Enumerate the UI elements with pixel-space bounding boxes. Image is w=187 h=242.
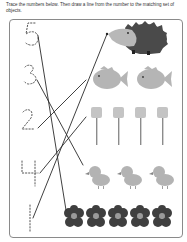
hedgehog-icon [106,21,168,55]
flower-icon [130,205,150,227]
match-line-5-flowers[interactable] [38,36,66,210]
number-3-trace[interactable] [24,65,36,84]
marshmallow-icon [157,107,168,145]
marshmallow-icon [113,107,124,145]
chick-icon [117,166,142,189]
marshmallow-icon [135,107,146,145]
number-5-trace[interactable] [25,23,38,45]
marshmallow-icon [91,107,102,145]
number-4-trace[interactable] [22,161,38,186]
flower-icon [64,205,84,227]
chick-icon [149,166,174,189]
flower-icon [152,205,172,227]
number-2-trace[interactable] [22,110,35,129]
fish-icon [93,66,128,89]
chick-icon [85,166,110,189]
match-line-4-marshmallows[interactable] [40,117,86,173]
worksheet-art [0,0,187,242]
fish-icon [137,66,172,89]
flower-icon [108,205,128,227]
flower-icon [86,205,106,227]
match-line-1-hedgehog[interactable] [33,34,107,218]
